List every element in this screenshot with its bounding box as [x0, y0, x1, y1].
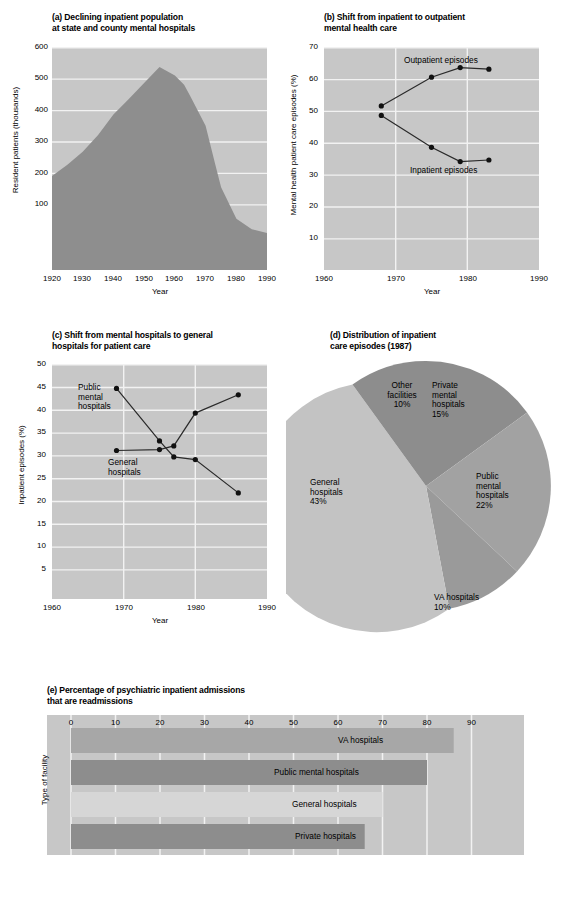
panel-c-public-mental-label-l1: Public [78, 382, 101, 392]
panel-e-xtick-80: 80 [411, 718, 443, 727]
panel-d-label-other-facilities: Other facilities 10% [373, 381, 431, 410]
panel-e-xtick-10: 10 [100, 718, 132, 727]
bar-public-mental-hospitals [71, 760, 427, 785]
panel-d-label-private-mental-hospitals: Private mental hospitals 15% [432, 381, 465, 419]
panel-a-title-line1: Declining inpatient population [64, 12, 183, 22]
panel-e-xtick-90: 90 [456, 718, 488, 727]
pie-label-other-l1: Other [392, 380, 413, 390]
pie-label-public-value: 22% [476, 500, 493, 510]
panel-e-barlabel-private-hospitals: Private hospitals [295, 831, 356, 841]
panel-a-xtick-1920: 1920 [36, 274, 68, 283]
panel-c-title-line2: hospitals for patient care [52, 341, 150, 351]
panel-b-title-line2: mental health care [324, 23, 397, 33]
pie-label-private-value: 15% [432, 409, 449, 419]
panel-a-xtick-1940: 1940 [97, 274, 129, 283]
panel-b: (b) Shift from inpatient to outpatient m… [286, 0, 572, 310]
panel-b-gridlines-vertical [396, 47, 468, 270]
panel-e-xtick-70: 70 [367, 718, 399, 727]
panel-e-bars [71, 728, 454, 849]
panel-c-title-line1: Shift from mental hospitals to general [64, 330, 213, 340]
panel-d-label-public-mental-hospitals: Public mental hospitals 22% [476, 472, 509, 510]
panel-e-barlabel-va-hospitals: VA hospitals [338, 735, 383, 745]
panel-e-title: (e) Percentage of psychiatric inpatient … [47, 685, 467, 707]
panel-c-tag: (c) [52, 330, 62, 340]
panel-d: (d) Distribution of inpatient care episo… [286, 320, 572, 640]
panel-e-bar-svg [47, 715, 524, 855]
panel-b-line-svg [324, 47, 539, 270]
panel-a: (a) Declining inpatient population at st… [0, 0, 286, 310]
panel-a-title-line2: at state and county mental hospitals [52, 23, 195, 33]
panel-c-public-mental-label: Public mental hospitals [78, 383, 111, 412]
panel-a-xtick-1970: 1970 [189, 274, 221, 283]
panel-c-public-mental-label-l3: hospitals [78, 401, 111, 411]
panel-e-tag: (e) [47, 685, 57, 695]
panel-e-xtick-50: 50 [278, 718, 310, 727]
panel-a-xtick-1980: 1980 [220, 274, 252, 283]
pie-label-other-value: 10% [394, 399, 411, 409]
panel-e-xtick-60: 60 [322, 718, 354, 727]
panel-b-yaxis-label: Mental health patient care episodes (%) [289, 30, 298, 260]
panel-a-tag: (a) [52, 12, 62, 22]
panel-e-title-line2: that are readmissions [47, 696, 133, 706]
pie-label-public-l1: Public [476, 471, 499, 481]
panel-b-title-line1: Shift from inpatient to outpatient [337, 12, 465, 22]
pie-label-private-l3: hospitals [432, 399, 465, 409]
panel-c-general-line [117, 395, 239, 451]
pie-label-public-l3: hospitals [476, 490, 509, 500]
panel-b-xtick-1980: 1980 [452, 274, 484, 283]
panel-e-barlabel-general-hospitals: General hospitals [292, 799, 357, 809]
panel-b-inpatient-line [381, 115, 489, 161]
panel-d-label-general-hospitals: General hospitals 43% [310, 478, 343, 507]
panel-e-plot-area [47, 715, 524, 855]
panel-e: (e) Percentage of psychiatric inpatient … [0, 640, 572, 901]
panel-c: (c) Shift from mental hospitals to gener… [0, 320, 286, 640]
pie-label-private-l1: Private [432, 380, 458, 390]
panel-d-label-va-hospitals: VA hospitals 10% [434, 593, 479, 612]
panel-c-xtick-1990: 1990 [251, 603, 283, 612]
panel-c-gridlines-vertical [124, 364, 196, 599]
panel-b-xaxis-label: Year [392, 287, 472, 296]
panel-e-xtick-40: 40 [233, 718, 265, 727]
panel-c-ytick-5: 5 [20, 564, 46, 573]
panel-e-xtick-30: 30 [189, 718, 221, 727]
panel-e-yaxis-label: Type of facility [40, 730, 49, 830]
pie-label-va-l1: VA hospitals [434, 592, 479, 602]
panel-e-barlabel-public-mental-hospitals: Public mental hospitals [274, 767, 359, 777]
panel-a-plot-area [52, 47, 267, 270]
pie-label-private-l2: mental [432, 390, 457, 400]
panel-e-xtick-20: 20 [144, 718, 176, 727]
panel-a-xtick-1930: 1930 [66, 274, 98, 283]
panel-c-xtick-1960: 1960 [36, 603, 68, 612]
pie-label-general-l1: General [310, 477, 340, 487]
panel-c-yaxis-label: Inpatient episodes (%) [17, 380, 26, 550]
panel-b-xtick-1970: 1970 [380, 274, 412, 283]
panel-a-area-path [52, 67, 267, 270]
panel-c-general-label-l2: hospitals [108, 467, 141, 477]
panel-a-yaxis-label: Resident patients (thousands) [11, 35, 20, 245]
panel-a-xtick-1960: 1960 [158, 274, 190, 283]
panel-c-public-mental-label-l2: mental [78, 392, 103, 402]
pie-label-other-l2: facilities [387, 390, 417, 400]
panel-c-title: (c) Shift from mental hospitals to gener… [52, 330, 284, 352]
panel-e-xtick-0: 0 [55, 718, 87, 727]
panel-c-ytick-50: 50 [20, 359, 46, 368]
panel-c-general-label-l1: General [108, 457, 138, 467]
panel-a-area-svg [52, 47, 267, 270]
panel-b-plot-area [324, 47, 539, 270]
bar-va-hospitals [71, 728, 454, 753]
panel-a-xtick-1950: 1950 [128, 274, 160, 283]
pie-label-va-value: 10% [434, 602, 451, 612]
panel-c-general-label: General hospitals [108, 458, 141, 477]
pie-label-general-l2: hospitals [310, 487, 343, 497]
pie-label-public-l2: mental [476, 481, 501, 491]
panel-b-outpatient-line [381, 68, 489, 106]
panel-b-tag: (b) [324, 12, 335, 22]
panel-b-xtick-1990: 1990 [523, 274, 555, 283]
panel-b-xtick-1960: 1960 [308, 274, 340, 283]
pie-label-general-value: 43% [310, 496, 327, 506]
panel-a-title: (a) Declining inpatient population at st… [52, 12, 282, 34]
panel-b-outpatient-label: Outpatient episodes [404, 56, 478, 66]
panel-a-xtick-1990: 1990 [251, 274, 283, 283]
panel-c-xtick-1980: 1980 [180, 603, 212, 612]
panel-a-xaxis-label: Year [120, 287, 200, 296]
